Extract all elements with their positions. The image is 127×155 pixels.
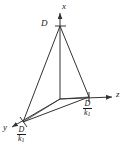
- intercept-label-x: D: [41, 19, 48, 28]
- fraction-numerator-z: D: [83, 100, 92, 108]
- fraction-denominator-z: k1: [83, 108, 92, 117]
- axis-label-y: y: [3, 123, 7, 132]
- intercept-label-z: D k1: [83, 100, 92, 118]
- denominator-subscript-y: 1: [22, 137, 25, 143]
- plane-edge-x-to-y: [23, 26, 60, 122]
- figure-3d-plane-intercepts: x z y D D k1 D k1: [0, 0, 127, 155]
- plane-edge-y-to-z: [23, 97, 89, 122]
- axis-label-z: z: [116, 90, 120, 99]
- intercept-label-y: D k1: [17, 126, 26, 144]
- plane-edge-x-to-z: [60, 26, 89, 97]
- fraction-denominator-y: k1: [17, 134, 26, 143]
- denominator-subscript-z: 1: [88, 111, 91, 117]
- axis-label-x: x: [62, 2, 66, 11]
- fraction-numerator-y: D: [17, 126, 26, 134]
